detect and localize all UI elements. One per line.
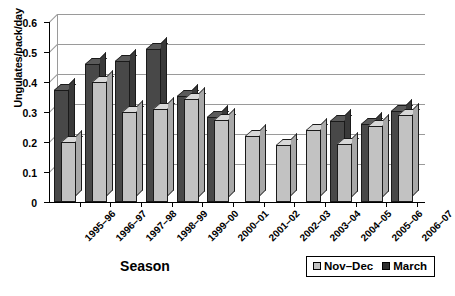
y-axis-tick: 0.4 bbox=[44, 82, 49, 83]
x-axis-tick bbox=[264, 202, 265, 207]
bar-front-face bbox=[184, 99, 199, 203]
y-axis-tick-label: 0.6 bbox=[22, 17, 37, 29]
y-axis-tick-label: 0 bbox=[31, 197, 37, 209]
legend-swatch-march bbox=[382, 262, 390, 270]
x-axis-label-2006–07: 2006–07 bbox=[420, 208, 455, 243]
y-axis-tick: 0.5 bbox=[44, 52, 49, 53]
y-axis-tick: 0.6 bbox=[44, 22, 49, 23]
legend-label-march: March bbox=[393, 260, 427, 272]
x-axis-label-1997–98: 1997–98 bbox=[144, 208, 179, 243]
x-axis-tick bbox=[80, 202, 81, 207]
x-axis-tick bbox=[202, 202, 203, 207]
x-axis-tick bbox=[386, 202, 387, 207]
bar-side-face bbox=[229, 108, 235, 197]
bar-nov-dec-1995–96 bbox=[61, 142, 76, 202]
bar-side-face bbox=[413, 103, 419, 196]
x-axis-tick bbox=[141, 202, 142, 207]
bar-side-face bbox=[383, 114, 389, 197]
bar-nov-dec-2000–01 bbox=[214, 120, 229, 203]
x-axis-title: Season bbox=[0, 258, 290, 274]
bar-nov-dec-2001–02 bbox=[245, 136, 260, 202]
bar-nov-dec-1996–97 bbox=[92, 82, 107, 202]
bar-nov-dec-2004–05 bbox=[337, 144, 352, 203]
y-axis-tick-label: 0.5 bbox=[22, 47, 37, 59]
bar-side-face bbox=[260, 124, 266, 196]
bar-side-face bbox=[168, 97, 174, 196]
chart-legend: Nov–Dec March bbox=[306, 256, 435, 277]
x-axis-label-1995–96: 1995–96 bbox=[82, 208, 117, 243]
x-axis-tick bbox=[294, 202, 295, 207]
y-axis-tick-label: 0.4 bbox=[22, 77, 37, 89]
bar-front-face bbox=[306, 130, 321, 202]
bar-front-face bbox=[92, 82, 107, 202]
bar-front-face bbox=[337, 144, 352, 203]
bar-side-face bbox=[352, 132, 358, 197]
x-axis-label-2005–06: 2005–06 bbox=[389, 208, 424, 243]
y-axis-tick: 0.1 bbox=[44, 172, 49, 173]
x-axis-label-2003–04: 2003–04 bbox=[328, 208, 363, 243]
x-axis-tick bbox=[233, 202, 234, 207]
bar-side-face bbox=[76, 130, 82, 196]
bar-front-face bbox=[153, 109, 168, 202]
bar-side-face bbox=[291, 133, 297, 196]
legend-item-nov-dec: Nov–Dec bbox=[313, 260, 373, 272]
y-axis-tick: 0.2 bbox=[44, 142, 49, 143]
x-axis-label-2000–01: 2000–01 bbox=[236, 208, 271, 243]
y-axis-tick: 0.3 bbox=[44, 112, 49, 113]
bar-nov-dec-2003–04 bbox=[306, 130, 321, 202]
legend-label-nov-dec: Nov–Dec bbox=[324, 260, 373, 272]
legend-swatch-nov-dec bbox=[313, 262, 321, 270]
x-axis-tick bbox=[356, 202, 357, 207]
bar-nov-dec-2006–07 bbox=[398, 115, 413, 202]
x-axis-tick bbox=[110, 202, 111, 207]
y-axis-tick-label: 0.1 bbox=[22, 167, 37, 179]
bar-nov-dec-2002–03 bbox=[276, 145, 291, 202]
bar-front-face bbox=[61, 142, 76, 202]
plot-area: 0.60.50.40.30.20.10 bbox=[49, 22, 417, 202]
bar-nov-dec-1999–00 bbox=[184, 99, 199, 203]
bar-side-face bbox=[321, 118, 327, 196]
gridline bbox=[57, 14, 425, 15]
legend-item-march: March bbox=[382, 260, 427, 272]
x-axis-tick bbox=[325, 202, 326, 207]
bar-front-face bbox=[214, 120, 229, 203]
bar-front-face bbox=[368, 126, 383, 203]
x-axis-tick bbox=[417, 202, 418, 207]
x-axis-label-1998–99: 1998–99 bbox=[174, 208, 209, 243]
x-axis-label-1996–97: 1996–97 bbox=[113, 208, 148, 243]
bar-side-face bbox=[199, 87, 205, 197]
y-axis-line bbox=[49, 22, 50, 202]
bar-nov-dec-1997–98 bbox=[122, 112, 137, 202]
y-axis-tick-label: 0.3 bbox=[22, 107, 37, 119]
bar-nov-dec-2005–06 bbox=[368, 126, 383, 203]
bar-side-face bbox=[107, 70, 113, 196]
x-axis-label-1999–00: 1999–00 bbox=[205, 208, 240, 243]
x-axis-line bbox=[49, 202, 425, 203]
x-axis-label-2002–03: 2002–03 bbox=[297, 208, 332, 243]
bar-front-face bbox=[276, 145, 291, 202]
bar-front-face bbox=[122, 112, 137, 202]
x-axis-tick bbox=[172, 202, 173, 207]
gridline bbox=[57, 44, 425, 45]
y-axis-tick-label: 0.2 bbox=[22, 137, 37, 149]
x-axis-label-2004–05: 2004–05 bbox=[358, 208, 393, 243]
x-axis-label-2001–02: 2001–02 bbox=[266, 208, 301, 243]
bar-nov-dec-1998–99 bbox=[153, 109, 168, 202]
bar-side-face bbox=[137, 100, 143, 196]
bar-front-face bbox=[245, 136, 260, 202]
bar-front-face bbox=[398, 115, 413, 202]
